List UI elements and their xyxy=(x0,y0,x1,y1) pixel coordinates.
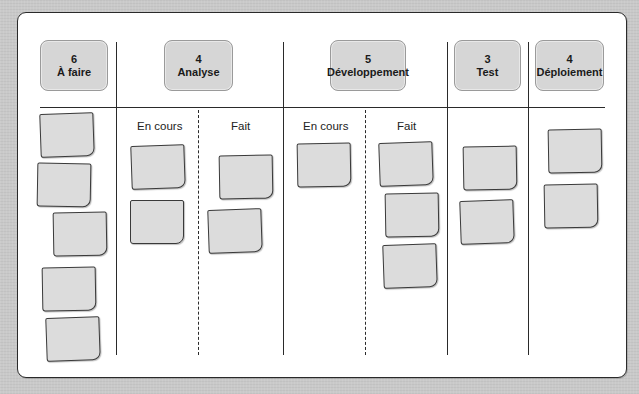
column-header-development: 5 Développement xyxy=(330,40,406,91)
column-count: 3 xyxy=(484,53,490,66)
kanban-card[interactable] xyxy=(130,144,186,190)
column-count: 4 xyxy=(195,53,201,66)
kanban-card[interactable] xyxy=(53,212,108,257)
column-divider xyxy=(528,42,529,355)
kanban-card[interactable] xyxy=(382,243,438,289)
subcolumn-divider xyxy=(365,110,366,355)
column-count: 5 xyxy=(365,53,371,66)
column-title: Analyse xyxy=(177,66,219,79)
column-divider xyxy=(283,42,284,355)
subcolumn-label-analysis-in-progress: En cours xyxy=(137,120,182,132)
kanban-card[interactable] xyxy=(42,267,97,312)
kanban-card[interactable] xyxy=(544,184,599,229)
kanban-card[interactable] xyxy=(378,141,434,187)
kanban-card[interactable] xyxy=(297,143,352,188)
column-title: Déploiement xyxy=(536,66,602,79)
column-header-deployment: 4 Déploiement xyxy=(535,40,604,91)
subcolumn-label-dev-done: Fait xyxy=(397,120,416,132)
column-divider xyxy=(116,42,117,355)
column-title: Test xyxy=(477,66,499,79)
column-count: 6 xyxy=(71,53,77,66)
column-count: 4 xyxy=(566,53,572,66)
kanban-card[interactable] xyxy=(45,316,101,362)
header-divider xyxy=(40,107,605,108)
kanban-card[interactable] xyxy=(130,200,184,244)
kanban-card[interactable] xyxy=(39,112,95,158)
subcolumn-label-analysis-done: Fait xyxy=(231,120,250,132)
kanban-card[interactable] xyxy=(219,155,274,200)
column-title: Développement xyxy=(327,66,409,79)
column-header-analysis: 4 Analyse xyxy=(164,40,233,91)
kanban-card[interactable] xyxy=(459,199,515,245)
kanban-card[interactable] xyxy=(548,129,603,174)
subcolumn-label-dev-in-progress: En cours xyxy=(303,120,348,132)
kanban-card[interactable] xyxy=(385,193,440,238)
column-title: À faire xyxy=(57,66,91,79)
kanban-card[interactable] xyxy=(463,146,518,191)
column-header-todo: 6 À faire xyxy=(40,40,108,91)
subcolumn-divider xyxy=(198,110,199,355)
column-header-test: 3 Test xyxy=(454,40,521,91)
kanban-card[interactable] xyxy=(207,208,263,254)
column-divider xyxy=(447,42,448,355)
kanban-card[interactable] xyxy=(37,163,92,208)
